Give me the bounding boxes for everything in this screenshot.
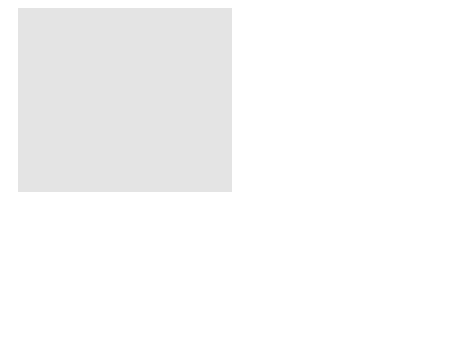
diagram-canvas xyxy=(0,0,475,354)
frame-background xyxy=(18,8,232,192)
